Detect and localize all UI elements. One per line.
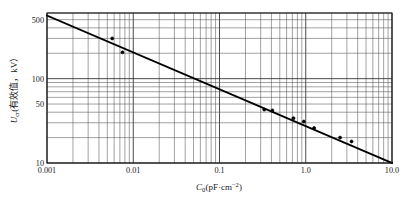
data-point [271, 109, 274, 112]
x-axis-title: C0(pF·cm−2) [196, 181, 242, 193]
log-log-chart-figure: 0.0010.010.11.010.0 5001005010 C0(pF·cm−… [0, 0, 407, 201]
data-point [292, 117, 295, 120]
y-tick-label: 500 [32, 16, 44, 25]
x-tick-label: 1.0 [301, 166, 311, 175]
x-axis-title-superscript: −2 [232, 181, 239, 188]
svg-text:Ucr(有效值，kV）: Ucr(有效值，kV） [8, 53, 20, 124]
data-point [339, 136, 342, 139]
data-point [313, 126, 316, 129]
y-tick-label: 50 [36, 100, 44, 109]
y-axis-title-paren: (有效值，kV） [8, 53, 19, 112]
svg-text:C0(pF·cm−2): C0(pF·cm−2) [196, 181, 242, 193]
y-tick-label: 100 [32, 75, 44, 84]
data-point [302, 120, 305, 123]
x-axis-title-paren: (pF·cm [205, 182, 232, 192]
x-axis-title-close: ) [239, 182, 242, 192]
y-axis-tick-labels: 5001005010 [32, 16, 44, 168]
x-tick-label: 0.01 [126, 166, 140, 175]
x-axis-tick-labels: 0.0010.010.11.010.0 [38, 166, 399, 175]
y-tick-label: 10 [36, 159, 44, 168]
data-point [350, 140, 353, 143]
y-axis-title: Ucr(有效值，kV） [8, 53, 20, 124]
data-point [111, 37, 114, 40]
data-point [121, 51, 124, 54]
x-tick-label: 10.0 [385, 166, 399, 175]
data-point [263, 108, 266, 111]
x-tick-label: 0.1 [214, 166, 224, 175]
chart-svg: 0.0010.010.11.010.0 5001005010 C0(pF·cm−… [0, 0, 407, 201]
